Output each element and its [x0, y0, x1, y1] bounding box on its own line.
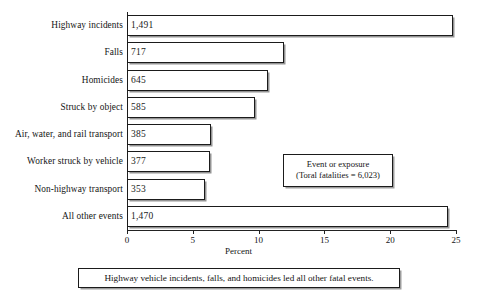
category-label: All other events [62, 206, 123, 227]
x-tick-label: 0 [125, 235, 130, 245]
caption-box: Highway vehicle incidents, falls, and ho… [78, 268, 400, 288]
x-tick [456, 230, 457, 234]
x-axis-line [127, 230, 457, 231]
bar [127, 97, 255, 118]
category-label: Worker struck by vehicle [27, 151, 123, 172]
bar-value-label: 353 [131, 179, 146, 200]
bar-row: Struck by object585 [127, 94, 456, 121]
bar-value-label: 717 [131, 42, 146, 63]
legend-box: Event or exposure (Toral fatalities = 6,… [283, 154, 393, 187]
bar-row: Homicides645 [127, 67, 456, 94]
x-tick [324, 230, 325, 234]
x-axis-title: Percent [0, 246, 477, 256]
legend-line-title: Event or exposure [286, 159, 390, 170]
category-label: Non-highway transport [34, 179, 123, 200]
x-tick [259, 230, 260, 234]
bar-value-label: 645 [131, 70, 146, 91]
bar-row: Highway incidents1,491 [127, 12, 456, 39]
bar [127, 15, 453, 36]
bar-value-label: 385 [131, 124, 146, 145]
category-label: Falls [104, 42, 123, 63]
plot-area: Highway incidents1,491Falls717Homicides6… [127, 12, 456, 230]
category-label: Homicides [82, 70, 123, 91]
bar-value-label: 585 [131, 97, 146, 118]
bar-row: All other events1,470 [127, 203, 456, 230]
bar [127, 206, 448, 227]
bar-value-label: 377 [131, 151, 146, 172]
x-tick-label: 15 [320, 235, 329, 245]
bar-value-label: 1,470 [131, 206, 153, 227]
bar-value-label: 1,491 [131, 15, 153, 36]
bar-chart: Highway incidents1,491Falls717Homicides6… [0, 0, 477, 301]
x-tick [193, 230, 194, 234]
legend-line-total: (Toral fatalities = 6,023) [286, 170, 390, 181]
bar-row: Air, water, and rail transport385 [127, 121, 456, 148]
category-label: Highway incidents [51, 15, 123, 36]
x-tick-label: 5 [191, 235, 196, 245]
x-tick-label: 25 [452, 235, 461, 245]
x-tick [127, 230, 128, 234]
bar [127, 70, 268, 91]
caption-text: Highway vehicle incidents, falls, and ho… [104, 273, 373, 283]
x-tick [390, 230, 391, 234]
bar [127, 42, 284, 63]
category-label: Struck by object [60, 97, 123, 118]
x-tick-label: 10 [254, 235, 263, 245]
bar-row: Falls717 [127, 39, 456, 66]
x-tick-label: 20 [386, 235, 395, 245]
bar-rows: Highway incidents1,491Falls717Homicides6… [127, 12, 456, 230]
category-label: Air, water, and rail transport [15, 124, 123, 145]
